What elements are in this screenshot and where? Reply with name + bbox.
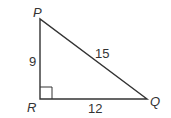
vertex-label-p: P [33,6,42,19]
triangle-diagram [0,0,171,118]
vertex-label-r: R [27,101,36,114]
side-label-rq: 12 [88,102,102,115]
right-angle-marker [40,87,52,99]
vertex-label-q: Q [150,95,160,108]
side-label-pr: 9 [29,55,36,68]
side-label-pq: 15 [95,47,109,60]
triangle-pqr [40,19,147,99]
